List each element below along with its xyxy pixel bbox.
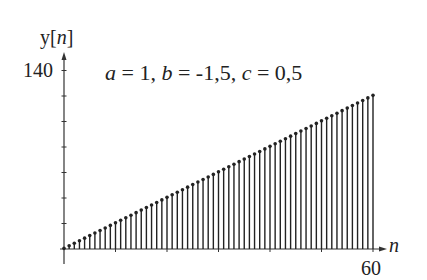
stem-marker	[134, 211, 138, 215]
stem-marker	[351, 104, 355, 108]
stem-marker	[294, 132, 298, 136]
stem-marker	[361, 99, 365, 103]
stem-marker	[78, 239, 82, 243]
stem-marker	[284, 137, 288, 141]
stem-marker	[315, 122, 319, 126]
stem-marker	[304, 127, 308, 131]
stem-marker	[345, 106, 349, 110]
stem-marker	[335, 111, 339, 115]
stem-marker	[88, 234, 92, 238]
stem-marker	[119, 219, 123, 223]
stem-marker	[248, 155, 252, 159]
y-axis-label: y[n]	[40, 26, 73, 49]
stem-marker	[67, 244, 71, 248]
stem-marker	[273, 142, 277, 146]
stem-marker	[279, 139, 283, 143]
stem-marker	[330, 114, 334, 118]
stem-marker	[232, 162, 236, 166]
stem-marker	[83, 236, 87, 240]
stems	[62, 94, 375, 251]
stem-marker	[196, 180, 200, 184]
stem-marker	[160, 198, 164, 202]
stem-marker	[289, 134, 293, 138]
stem-marker	[62, 247, 66, 251]
stem-marker	[139, 208, 143, 212]
stem-marker	[242, 157, 246, 161]
x-axis-label: n	[389, 234, 399, 257]
stem-marker	[340, 109, 344, 113]
stem-marker	[309, 124, 313, 128]
stem-marker	[191, 183, 195, 187]
stem-marker	[129, 213, 133, 217]
stem-marker	[201, 178, 205, 182]
stem-marker	[371, 94, 375, 98]
stem-marker	[124, 216, 128, 220]
stem-marker	[165, 196, 169, 200]
y-axis-arrow-icon	[62, 52, 67, 60]
stem-marker	[206, 175, 210, 179]
x-tick-label-60: 60	[361, 257, 381, 280]
stem-marker	[366, 96, 370, 100]
parameter-annotation: a = 1, b = -1,5, c = 0,5	[105, 60, 302, 86]
stem-marker	[258, 150, 262, 154]
stem-marker	[320, 119, 324, 123]
stem-marker	[181, 188, 185, 192]
stem-marker	[155, 201, 159, 205]
stem-marker	[325, 117, 329, 121]
stem-marker	[268, 145, 272, 149]
x-axis-arrow-icon	[379, 247, 387, 252]
stem-marker	[98, 229, 102, 233]
stem-marker	[253, 152, 257, 156]
stem-marker	[93, 231, 97, 235]
stem-marker	[263, 147, 267, 151]
stem-marker	[73, 241, 77, 245]
stem-marker	[227, 165, 231, 169]
stem-marker	[176, 190, 180, 194]
stem-marker	[103, 226, 107, 230]
stem-marker	[212, 173, 216, 177]
stem-marker	[356, 101, 360, 105]
stem-marker	[145, 206, 149, 210]
stem-marker	[150, 203, 154, 207]
y-tick-label-140: 140	[23, 59, 53, 82]
stem-marker	[170, 193, 174, 197]
stem-marker	[109, 224, 113, 228]
stem-marker	[217, 170, 221, 174]
stem-marker	[237, 160, 241, 164]
stem-marker	[114, 221, 118, 225]
stem-marker	[299, 129, 303, 133]
stem-marker	[222, 168, 226, 172]
stem-marker	[186, 185, 190, 189]
